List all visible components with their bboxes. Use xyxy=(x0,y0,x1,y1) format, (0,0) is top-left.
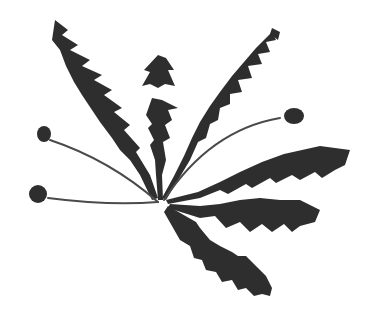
leaf-center-top xyxy=(142,55,175,88)
dandelion-illustration xyxy=(0,0,375,317)
bud-right xyxy=(284,108,304,124)
bud-left-lower xyxy=(29,185,47,203)
stem-left-lower xyxy=(48,198,158,203)
bud-left-upper xyxy=(37,126,51,142)
leaf-right-upper xyxy=(166,146,350,204)
dandelion-plant-graphic xyxy=(0,0,375,317)
leaf-upper-left xyxy=(52,20,158,200)
